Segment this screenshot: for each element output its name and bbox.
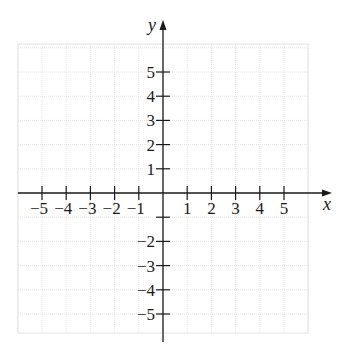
coordinate-plane-figure: −5−4−3−2−112345 54321−2−3−4−5 x y <box>0 0 347 349</box>
x-tick-label: −4 <box>54 199 73 218</box>
x-tick-label: −1 <box>127 199 145 218</box>
x-tick-label: −5 <box>30 199 48 218</box>
y-tick-label: −2 <box>137 232 155 251</box>
y-tick-label: 5 <box>147 63 156 82</box>
axes <box>18 20 332 342</box>
x-tick-label: 4 <box>256 199 265 218</box>
y-tick-label: 3 <box>147 111 156 130</box>
y-tick-label: −3 <box>137 257 155 276</box>
y-tick-label: −4 <box>137 281 156 300</box>
y-axis-label: y <box>146 15 156 35</box>
y-tick-label: −5 <box>137 305 155 324</box>
x-tick-label: 5 <box>280 199 289 218</box>
y-tick-label: 1 <box>147 160 156 179</box>
x-tick-label: −3 <box>78 199 96 218</box>
x-axis-ticks: −5−4−3−2−112345 <box>30 186 288 218</box>
y-axis-arrow-icon <box>160 20 167 30</box>
x-tick-label: 3 <box>231 199 240 218</box>
y-tick-label: 2 <box>147 136 156 155</box>
x-tick-label: 1 <box>183 199 192 218</box>
x-tick-label: −2 <box>103 199 121 218</box>
coordinate-plane: −5−4−3−2−112345 54321−2−3−4−5 x y <box>0 0 347 349</box>
x-tick-label: 2 <box>207 199 216 218</box>
x-axis-label: x <box>322 194 331 214</box>
y-tick-label: 4 <box>147 87 156 106</box>
